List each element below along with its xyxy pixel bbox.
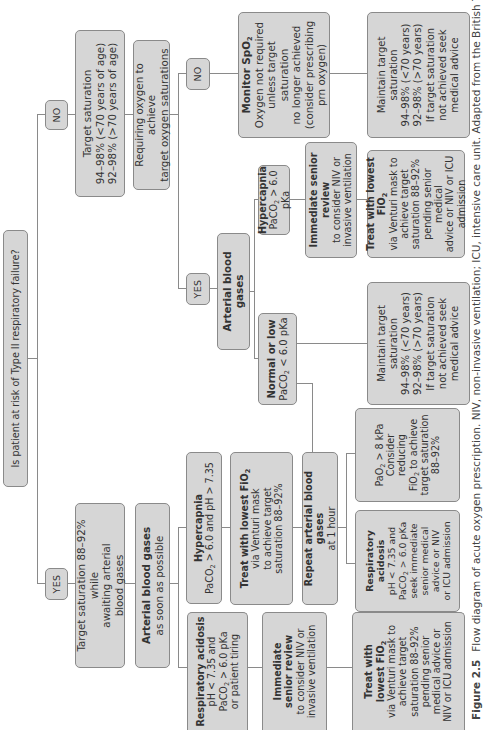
monitor-line: Oxygen not required	[253, 22, 266, 128]
maintain-line: medical advice	[449, 37, 461, 112]
treat-lowest-fio2-box: Treat with lowest FiO2 via Venturi mask …	[367, 150, 465, 258]
hypercapnia-ph-box: Hypercapnia PaCO2 > 6.0 and pH > 7.35	[186, 452, 222, 604]
connector	[297, 343, 367, 344]
resp-acid-r-line: pH < 7.35 and	[386, 527, 397, 595]
maintain-line: Maintain target	[376, 37, 388, 114]
connector	[178, 73, 186, 74]
yes-label: YES	[45, 568, 68, 600]
treat-lowest-left-box: Treat with lowest FiO2 via Venturi mask …	[352, 612, 465, 730]
connector	[210, 73, 238, 74]
immediate-title: Immediate senior review	[308, 146, 331, 254]
normal-low-box: Normal or low PaCO2 < 6.0 pKa	[258, 313, 297, 405]
connector	[37, 583, 45, 584]
connector	[170, 583, 178, 584]
connector	[170, 114, 178, 115]
no-label-2: NO	[186, 58, 210, 90]
connector	[346, 563, 355, 564]
connector	[37, 114, 38, 584]
maintain-line: 92–98% (>70 years)	[412, 24, 424, 127]
resp-acid-r-title2: acidosis	[375, 540, 386, 583]
pao2-line1: PaO2 > 8 kPa	[374, 423, 385, 486]
target-saturation-box: Target saturation 94–98% (<70 years of a…	[75, 30, 125, 197]
connector	[254, 199, 255, 359]
connector	[248, 667, 262, 668]
treat-left-line: pending senior	[420, 636, 431, 708]
maintain-target-no-box: Maintain target saturation 94–98% (<70 y…	[367, 12, 470, 138]
connector	[125, 583, 135, 584]
connector	[210, 288, 217, 289]
maintain-line: If target saturation	[425, 296, 437, 390]
yes-label-2-text: YES	[192, 280, 203, 299]
connector	[178, 667, 187, 668]
resp-acid-r-line: or ICU admission	[441, 521, 452, 600]
maintain-line: not achieved seek	[437, 298, 449, 389]
imm-left-title1: Immediate	[272, 643, 283, 701]
yes-label-text: YES	[51, 575, 62, 594]
maintain-line: If target saturation	[425, 28, 437, 122]
resp-acid-title: Respiratory acidosis	[195, 616, 206, 726]
connector	[28, 358, 37, 359]
abg-asap-subtitle: as soon as possible	[153, 536, 166, 636]
treat-left-line: saturation 88–92%	[409, 626, 420, 716]
treat-left-line: medical advice or	[431, 629, 442, 714]
no-label: NO	[45, 100, 68, 130]
yes-label-2: YES	[186, 273, 210, 305]
hypercapnia-detail: PaCO2 > 6.0 pKa	[268, 169, 291, 231]
resp-acid-line: pH < 7.35 and	[206, 637, 217, 707]
resp-acid-line: PaCO2 > 6.0 pKa	[218, 631, 229, 711]
treat-line: admission	[456, 180, 467, 229]
repeat-abg-title: Repeat arterial blood gases	[303, 456, 326, 601]
treat-venturi-line: via Venturi mask	[250, 488, 261, 568]
treat-venturi-title: Treat with lowest FiO2	[239, 469, 250, 588]
resp-acid-r-line: senior medical	[419, 527, 430, 596]
treat-venturi-line: to achieve target	[262, 487, 273, 569]
no-label-2-text: NO	[192, 66, 203, 81]
caption-text: Flow diagram of acute oxygen prescriptio…	[470, 0, 482, 652]
treat-line: via Venturi mask to	[388, 157, 399, 250]
requiring-line1: Requiring oxygen to achieve	[133, 44, 158, 186]
target-88-line1: Target saturation 88–92% while	[75, 507, 100, 664]
resp-acidosis-repeat-box: Respiratory acidosis pH < 7.35 and PaCO2…	[355, 510, 460, 612]
resp-acid-r-line: seek immediate	[408, 523, 419, 598]
resp-acid-line: or patient tiring	[229, 634, 240, 709]
treat-title: Treat with lowest FiO2	[365, 154, 388, 254]
abg-asap-box: Arterial blood gases as soon as possible	[135, 503, 170, 668]
connector	[290, 199, 305, 200]
connector	[338, 527, 346, 528]
imm-left-line: to consider NIV or	[295, 629, 306, 715]
maintain-line: 94–98% (<70 years)	[400, 24, 412, 127]
connector	[346, 453, 355, 454]
treat-line: pending senior medical	[422, 154, 445, 254]
repeat-abg-subtitle: at 1 hour	[326, 507, 337, 551]
treat-line: saturation 88–92%	[410, 159, 421, 249]
requiring-oxygen-box: Requiring oxygen to achieve target oxyge…	[133, 40, 170, 190]
target-sat-title: Target saturation	[81, 70, 94, 158]
connector	[297, 383, 312, 384]
connector	[68, 583, 75, 584]
treat-left-line: achieve target	[397, 637, 408, 707]
target-sat-line2: 92–98% (>70 years of age)	[106, 43, 119, 184]
pao2-line2: Consider	[385, 434, 396, 476]
resp-acid-r-title1: Respiratory	[364, 530, 375, 592]
monitor-spo2-box: Monitor SpO2 Oxygen not required unless …	[238, 12, 330, 138]
monitor-line: unless target saturation	[265, 16, 290, 134]
target-88-line3: blood gases	[113, 555, 126, 617]
resp-acid-r-line: PaCO2 > 6.0 pKa	[397, 522, 408, 600]
abg-title: Arterial blood gases	[222, 237, 245, 346]
treat-line: achieve target	[399, 169, 410, 239]
treat-venturi-line: saturation 88–92%	[273, 483, 284, 573]
connector	[178, 74, 179, 289]
monitor-line: (consider prescribing	[303, 21, 316, 130]
maintain-line: 92–98% (>70 years)	[412, 292, 424, 395]
treat-left-line: via Venturi mask to	[386, 625, 397, 718]
requiring-line2: target oxygen saturations	[158, 48, 171, 181]
repeat-abg-box: Repeat arterial blood gases at 1 hour	[302, 452, 338, 605]
maintain-line: 94–98% (<70 years)	[400, 292, 412, 395]
connector	[330, 73, 367, 74]
hypercapnia-title: Hypercapnia	[257, 166, 268, 234]
connector	[178, 288, 186, 289]
connector	[293, 527, 302, 528]
maintain-line: Maintain target	[376, 305, 388, 382]
abg-box: Arterial blood gases	[217, 233, 250, 350]
